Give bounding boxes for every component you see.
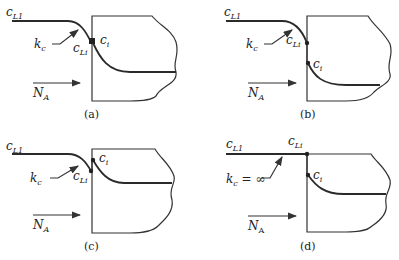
bulk-concentration-label: cL1 [6, 139, 23, 155]
kc-label: kc [246, 37, 258, 53]
ci-label: ci [313, 168, 323, 184]
panel-caption: (a) [84, 108, 99, 121]
kc-label: kc [30, 171, 42, 187]
flux-label: NA [32, 218, 50, 234]
panel-c: cL1 kc cLi ci NA (c) [6, 139, 174, 253]
cLi-label: cLi [286, 33, 301, 49]
panel-caption: (b) [300, 108, 316, 121]
ci-label: ci [99, 151, 109, 167]
kc-label: kc [34, 37, 46, 53]
bulk-concentration-label: cL1 [226, 137, 243, 153]
flux-label: NA [32, 86, 50, 102]
bulk-concentration-label: cL1 [6, 5, 23, 21]
flux-label: NA [247, 86, 265, 102]
mass-transfer-diagram: cL1 kc cLi ci NA (a) cL1 kc cLi ci NA (b… [0, 0, 399, 260]
interface-point [89, 38, 95, 44]
cLi-point [305, 41, 309, 45]
cLi-label: cLi [73, 169, 88, 185]
bulk-concentration-label: cL1 [224, 5, 241, 21]
panel-a: cL1 kc cLi ci NA (a) [6, 5, 177, 121]
panel-d: cL1 cLi kc = ∞ ci NA (d) [226, 134, 390, 253]
panel-caption: (c) [84, 240, 99, 253]
cLi-label: cLi [288, 134, 303, 150]
solid-concentration-profile [93, 43, 176, 72]
cLi-point [305, 152, 309, 156]
ci-point [91, 158, 95, 162]
solid-phase-outline [92, 16, 177, 101]
ci-point [306, 61, 310, 65]
solid-phase-outline [307, 154, 390, 232]
panel-caption: (d) [300, 240, 316, 253]
kc-label: kc = ∞ [226, 172, 265, 188]
panel-b: cL1 kc cLi ci NA (b) [224, 5, 391, 121]
liquid-concentration-profile [12, 21, 91, 42]
flux-label: NA [247, 219, 265, 235]
cLi-label: cLi [73, 41, 88, 57]
ci-label: ci [313, 57, 323, 73]
ci-point [306, 173, 310, 177]
ci-label: ci [100, 33, 110, 49]
cLi-point [89, 169, 93, 173]
